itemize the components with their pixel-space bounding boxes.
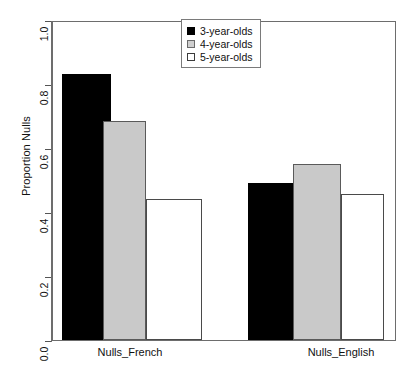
- legend: 3-year-olds4-year-olds5-year-olds: [181, 19, 261, 68]
- x-axis-label-nulls_french: Nulls_French: [98, 346, 163, 358]
- legend-label: 5-year-olds: [200, 51, 253, 63]
- legend-items: 3-year-olds4-year-olds5-year-olds: [187, 24, 253, 63]
- x-axis-label-nulls_english: Nulls_English: [308, 346, 375, 358]
- bar-nulls_english-4-year-olds: [293, 164, 341, 340]
- y-tick-label: 0.0: [38, 341, 50, 367]
- bar-nulls_english-5-year-olds: [341, 194, 384, 340]
- bar-nulls_english-3-year-olds: [248, 183, 293, 340]
- legend-swatch-black-icon: [187, 27, 195, 35]
- y-tick-label: 1.0: [38, 21, 50, 47]
- y-tick-label: 0.8: [38, 85, 50, 111]
- y-tick-label-wrap: 0.0: [18, 335, 44, 347]
- y-tick-label-wrap: 0.6: [18, 143, 44, 155]
- legend-label: 4-year-olds: [200, 38, 253, 50]
- y-tick-label: 0.4: [38, 213, 50, 239]
- y-tick-label: 0.6: [38, 149, 50, 175]
- legend-item-3-year-olds: 3-year-olds: [187, 24, 253, 37]
- y-tick-label-wrap: 1.0: [18, 15, 44, 27]
- bar-nulls_french-4-year-olds: [103, 121, 146, 340]
- y-tick-label-wrap: 0.4: [18, 207, 44, 219]
- legend-item-4-year-olds: 4-year-olds: [187, 37, 253, 50]
- y-tick-label-wrap: 0.2: [18, 271, 44, 283]
- legend-swatch-gray-icon: [187, 40, 195, 48]
- legend-item-5-year-olds: 5-year-olds: [187, 50, 253, 63]
- y-tick-label-wrap: 0.8: [18, 79, 44, 91]
- bar-nulls_french-5-year-olds: [146, 199, 202, 340]
- plot-area: [52, 21, 396, 341]
- legend-swatch-white-icon: [187, 53, 195, 61]
- y-tick-label: 0.2: [38, 277, 50, 303]
- y-axis-title: Proportion Nulls: [20, 86, 32, 226]
- bar-chart-figure: Proportion Nulls 0.00.20.40.60.81.0 Null…: [0, 0, 417, 376]
- legend-label: 3-year-olds: [200, 25, 253, 37]
